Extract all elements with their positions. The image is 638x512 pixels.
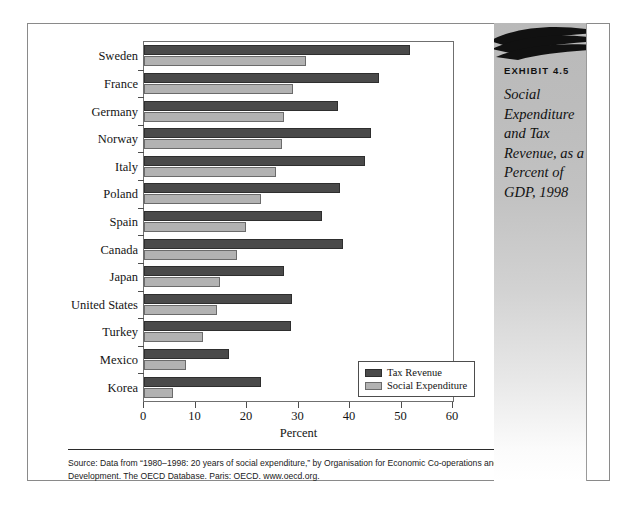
x-tick xyxy=(349,402,350,408)
bar-tax-revenue xyxy=(144,73,379,83)
bar-social-expenditure xyxy=(144,84,293,94)
category-label-korea: Korea xyxy=(30,381,138,396)
category-tick xyxy=(138,318,144,319)
bar-tax-revenue xyxy=(144,239,343,249)
bar-tax-revenue xyxy=(144,101,338,111)
exhibit-caption-panel: EXHIBIT 4.5 Social Expenditure and Tax R… xyxy=(494,23,587,481)
bar-tax-revenue xyxy=(144,156,365,166)
category-tick xyxy=(138,97,144,98)
x-tick xyxy=(452,402,453,408)
category-tick xyxy=(138,263,144,264)
source-divider xyxy=(68,449,508,450)
bar-social-expenditure xyxy=(144,56,306,66)
category-label-italy: Italy xyxy=(30,160,138,175)
bar-tax-revenue xyxy=(144,321,291,331)
category-tick xyxy=(138,125,144,126)
bar-tax-revenue xyxy=(144,183,340,193)
x-tick-label: 10 xyxy=(175,409,215,424)
category-label-united-states: United States xyxy=(30,298,138,313)
category-tick xyxy=(138,70,144,71)
x-tick xyxy=(298,402,299,408)
exhibit-title: Social Expenditure and Tax Revenue, as a… xyxy=(504,85,586,202)
category-label-germany: Germany xyxy=(30,105,138,120)
bar-social-expenditure xyxy=(144,194,261,204)
bar-tax-revenue xyxy=(144,294,292,304)
bar-group: Sweden xyxy=(144,45,453,66)
bar-social-expenditure xyxy=(144,332,203,342)
bar-group: Turkey xyxy=(144,321,453,342)
category-label-mexico: Mexico xyxy=(30,353,138,368)
bar-tax-revenue xyxy=(144,128,371,138)
bar-tax-revenue xyxy=(144,211,322,221)
bar-social-expenditure xyxy=(144,388,173,398)
category-label-turkey: Turkey xyxy=(30,325,138,340)
bar-social-expenditure xyxy=(144,360,186,370)
bar-social-expenditure xyxy=(144,222,246,232)
bar-group: Italy xyxy=(144,156,453,177)
chart-area: SwedenFranceGermanyNorwayItalyPolandSpai… xyxy=(28,24,522,482)
category-tick xyxy=(138,235,144,236)
x-tick xyxy=(246,402,247,408)
legend-swatch-tax-revenue xyxy=(365,369,382,377)
source-text: Source: Data from “1980–1998: 20 years o… xyxy=(68,457,508,482)
x-tick-label: 40 xyxy=(329,409,369,424)
bar-social-expenditure xyxy=(144,167,276,177)
bar-social-expenditure xyxy=(144,305,217,315)
bar-group: France xyxy=(144,73,453,94)
bar-group: Canada xyxy=(144,239,453,260)
category-label-norway: Norway xyxy=(30,132,138,147)
x-tick-label: 30 xyxy=(278,409,318,424)
swoosh-decoration-icon xyxy=(494,23,587,65)
legend-item-social-expenditure: Social Expenditure xyxy=(365,379,467,392)
bar-group: Spain xyxy=(144,211,453,232)
x-tick-label: 50 xyxy=(381,409,421,424)
category-tick xyxy=(138,152,144,153)
bar-tax-revenue xyxy=(144,349,229,359)
legend-label-social-expenditure: Social Expenditure xyxy=(387,380,467,391)
plot-area: SwedenFranceGermanyNorwayItalyPolandSpai… xyxy=(143,41,454,402)
x-tick xyxy=(143,402,144,408)
x-tick xyxy=(401,402,402,408)
bar-social-expenditure xyxy=(144,250,237,260)
bar-group: Poland xyxy=(144,183,453,204)
x-tick-label: 0 xyxy=(123,409,163,424)
legend-item-tax-revenue: Tax Revenue xyxy=(365,366,467,379)
x-tick-label: 60 xyxy=(432,409,472,424)
category-label-canada: Canada xyxy=(30,243,138,258)
chart-legend: Tax Revenue Social Expenditure xyxy=(358,361,475,397)
category-label-japan: Japan xyxy=(30,270,138,285)
category-label-france: France xyxy=(30,77,138,92)
category-tick xyxy=(138,180,144,181)
bar-tax-revenue xyxy=(144,45,410,55)
category-tick xyxy=(138,208,144,209)
bar-group: United States xyxy=(144,294,453,315)
x-axis-title: Percent xyxy=(143,426,454,441)
category-label-sweden: Sweden xyxy=(30,49,138,64)
exhibit-number: EXHIBIT 4.5 xyxy=(504,65,569,76)
legend-label-tax-revenue: Tax Revenue xyxy=(387,367,442,378)
x-axis: Percent 0102030405060 xyxy=(143,402,454,442)
legend-swatch-social-expenditure xyxy=(365,382,382,390)
category-tick xyxy=(138,291,144,292)
bar-group: Germany xyxy=(144,101,453,122)
category-label-spain: Spain xyxy=(30,215,138,230)
category-label-poland: Poland xyxy=(30,187,138,202)
bar-group: Japan xyxy=(144,266,453,287)
bar-social-expenditure xyxy=(144,277,220,287)
bar-social-expenditure xyxy=(144,139,282,149)
source-note: Source: Data from “1980–1998: 20 years o… xyxy=(68,449,508,482)
category-tick xyxy=(138,373,144,374)
bar-group: Norway xyxy=(144,128,453,149)
bar-tax-revenue xyxy=(144,266,284,276)
bar-tax-revenue xyxy=(144,377,261,387)
bar-social-expenditure xyxy=(144,112,284,122)
x-tick xyxy=(195,402,196,408)
x-tick-label: 20 xyxy=(226,409,266,424)
category-tick xyxy=(138,346,144,347)
